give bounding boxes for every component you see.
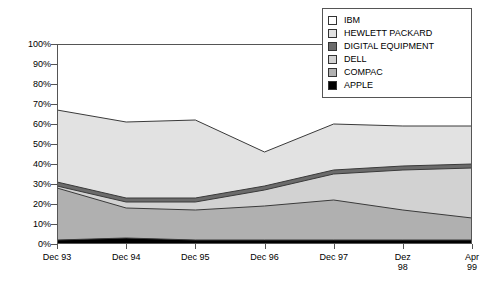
- chart-legend: IBMHEWLETT PACKARDDIGITAL EQUIPMENTDELLC…: [322, 8, 472, 98]
- legend-item[interactable]: IBM: [328, 14, 465, 27]
- legend-item[interactable]: COMPAC: [328, 66, 465, 79]
- legend-label: HEWLETT PACKARD: [344, 29, 432, 38]
- legend-label: DELL: [344, 55, 367, 64]
- y-axis-tick-label: 0%: [38, 239, 51, 249]
- legend-swatch-icon: [328, 29, 337, 38]
- y-axis-tick-label: 30%: [33, 179, 51, 189]
- x-axis-ticks: [57, 244, 473, 249]
- legend-label: DIGITAL EQUIPMENT: [344, 42, 434, 51]
- y-axis-tick-label: 20%: [33, 199, 51, 209]
- x-axis-tick-label: Dec 93: [43, 252, 72, 262]
- y-axis-tick-label: 50%: [33, 139, 51, 149]
- y-axis-tick-label: 100%: [28, 39, 51, 49]
- x-axis-tick-label: Dec 95: [181, 252, 210, 262]
- legend-swatch-icon: [328, 68, 337, 77]
- x-axis-tick-label: Dec 96: [250, 252, 279, 262]
- legend-swatch-icon: [328, 55, 337, 64]
- legend-item[interactable]: DELL: [328, 53, 465, 66]
- x-axis-tick-mark: [195, 244, 196, 249]
- legend-item[interactable]: DIGITAL EQUIPMENT: [328, 40, 465, 53]
- legend-swatch-icon: [328, 42, 337, 51]
- x-axis-labels: Dec 93Dec 94Dec 95Dec 96Dec 97Dez 98Apr …: [0, 250, 490, 282]
- y-axis-tick-label: 10%: [33, 219, 51, 229]
- legend-item[interactable]: APPLE: [328, 79, 465, 92]
- legend-label: IBM: [344, 16, 360, 25]
- x-axis-tick-mark: [126, 244, 127, 249]
- y-axis-tick-label: 90%: [33, 59, 51, 69]
- legend-swatch-icon: [328, 81, 337, 90]
- legend-label: COMPAC: [344, 68, 383, 77]
- x-axis-tick-label: Dec 94: [112, 252, 141, 262]
- x-axis-tick-label: Dez 98: [395, 252, 411, 272]
- x-axis-tick-mark: [403, 244, 404, 249]
- x-axis-tick-label: Dec 97: [319, 252, 348, 262]
- x-axis-tick-mark: [334, 244, 335, 249]
- legend-label: APPLE: [344, 81, 373, 90]
- y-axis-tick-label: 80%: [33, 79, 51, 89]
- x-axis-tick-label: Apr 99: [465, 252, 479, 272]
- x-axis-tick-mark: [265, 244, 266, 249]
- y-axis-tick-label: 40%: [33, 159, 51, 169]
- y-axis-tick-label: 70%: [33, 99, 51, 109]
- x-axis-tick-mark: [57, 244, 58, 249]
- legend-item[interactable]: HEWLETT PACKARD: [328, 27, 465, 40]
- y-axis-tick-label: 60%: [33, 119, 51, 129]
- chart-container: 100%90%80%70%60%50%40%30%20%10%0% Dec 93…: [0, 0, 490, 282]
- x-axis-tick-mark: [472, 244, 473, 249]
- y-axis-labels: 100%90%80%70%60%50%40%30%20%10%0%: [0, 44, 51, 244]
- legend-swatch-icon: [328, 16, 337, 25]
